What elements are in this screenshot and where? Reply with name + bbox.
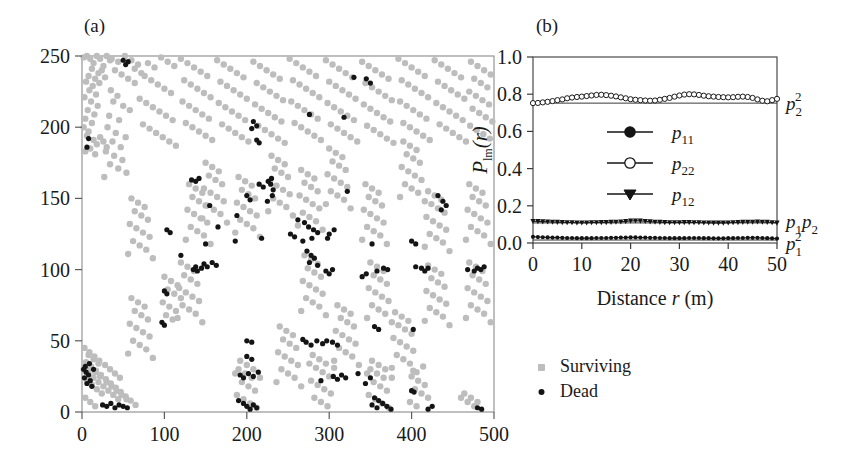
scatter-point — [169, 117, 175, 123]
marker-filled-circle — [687, 236, 691, 240]
marker-open-circle — [589, 93, 594, 98]
black-dot-icon — [539, 389, 545, 395]
scatter-point — [189, 293, 195, 299]
scatter-point — [132, 66, 138, 72]
scatter-point — [461, 96, 467, 102]
marker-open-circle — [608, 93, 613, 98]
scatter-point — [345, 189, 350, 194]
scatter-point — [224, 219, 230, 225]
scatter-point — [92, 403, 98, 409]
marker-filled-circle — [570, 236, 574, 240]
scatter-point — [369, 185, 375, 191]
scatter-point — [300, 278, 306, 284]
scatter-point — [169, 316, 175, 322]
scatter-point — [232, 370, 238, 376]
scatter-point — [371, 228, 377, 234]
y-tick-label: 0.2 — [497, 195, 522, 217]
scatter-point — [319, 291, 325, 297]
scatter-point — [347, 134, 353, 140]
scatter-point — [214, 57, 220, 63]
marker-open-circle — [774, 96, 779, 101]
scatter-point — [130, 238, 136, 244]
scatter-point — [371, 127, 377, 133]
scatter-point — [168, 278, 174, 284]
scatter-point — [209, 137, 215, 143]
scatter-point — [308, 342, 313, 347]
scatter-point — [179, 98, 185, 104]
scatter-point — [125, 405, 130, 410]
scatter-point — [108, 56, 114, 62]
scatter-point — [390, 140, 396, 146]
scatter-point — [278, 118, 284, 124]
scatter-point — [311, 133, 317, 139]
scatter-point — [461, 390, 467, 396]
scatter-point — [273, 93, 279, 99]
scatter-point — [292, 234, 297, 239]
marker-filled-circle — [624, 236, 628, 240]
scatter-point — [351, 75, 356, 80]
scatter-point — [205, 264, 210, 269]
scatter-point — [184, 60, 190, 66]
scatter-point — [385, 76, 391, 82]
scatter-point — [407, 360, 413, 366]
scatter-point — [202, 133, 208, 139]
scatter-point — [389, 97, 395, 103]
scatter-point — [249, 357, 254, 362]
scatter-point — [463, 315, 469, 321]
panel-a-legend-item-surviving[interactable]: Surviving — [538, 356, 631, 376]
scatter-point — [341, 130, 347, 136]
scatter-point — [140, 229, 146, 235]
scatter-point — [325, 236, 330, 241]
scatter-point — [136, 242, 142, 248]
scatter-point — [298, 308, 304, 314]
scatter-point — [384, 387, 390, 393]
scatter-point — [468, 302, 474, 308]
scatter-point — [91, 353, 97, 359]
scatter-point — [241, 375, 246, 380]
marker-filled-circle — [560, 236, 564, 240]
scatter-point — [295, 362, 301, 368]
scatter-point — [290, 77, 296, 83]
scatter-point — [330, 267, 335, 272]
scatter-point — [259, 236, 264, 241]
scatter-point — [94, 141, 100, 147]
scatter-point — [443, 227, 449, 233]
scatter-point — [305, 265, 311, 271]
scatter-point — [283, 204, 289, 210]
scatter-point — [118, 389, 124, 395]
marker-filled-circle — [550, 236, 554, 240]
scatter-point — [384, 281, 390, 287]
scatter-point — [402, 326, 408, 332]
scatter-point — [481, 311, 487, 317]
scatter-point — [163, 312, 169, 318]
marker-open-circle — [613, 94, 618, 99]
scatter-point — [364, 76, 369, 81]
scatter-point — [85, 107, 91, 113]
scatter-point — [97, 56, 103, 62]
scatter-point — [222, 104, 228, 110]
scatter-point — [413, 128, 419, 134]
scatter-point — [298, 167, 304, 173]
panel-a-legend-item-dead[interactable]: Dead — [539, 381, 598, 401]
scatter-point — [86, 349, 92, 355]
scatter-point — [173, 308, 179, 314]
scatter-point — [268, 152, 274, 158]
scatter-point — [312, 256, 317, 261]
scatter-point — [375, 190, 381, 196]
scatter-point — [304, 248, 309, 253]
scatter-point — [91, 111, 97, 117]
panel-b: (b) 0.00.20.40.60.81.0 01020304050 Plm(r… — [468, 15, 818, 310]
panel-b-x-axis: 01020304050 — [528, 243, 787, 275]
scatter-point — [476, 276, 482, 282]
scatter-point — [440, 104, 446, 110]
y-tick-label: 0.6 — [497, 120, 522, 142]
scatter-point — [275, 135, 281, 141]
scatter-point — [363, 381, 368, 386]
scatter-point — [290, 212, 296, 218]
scatter-point — [288, 358, 294, 364]
scatter-point — [101, 174, 107, 180]
scatter-point — [193, 311, 199, 317]
scatter-point — [196, 176, 201, 181]
scatter-point — [132, 80, 138, 86]
scatter-point — [451, 70, 457, 76]
